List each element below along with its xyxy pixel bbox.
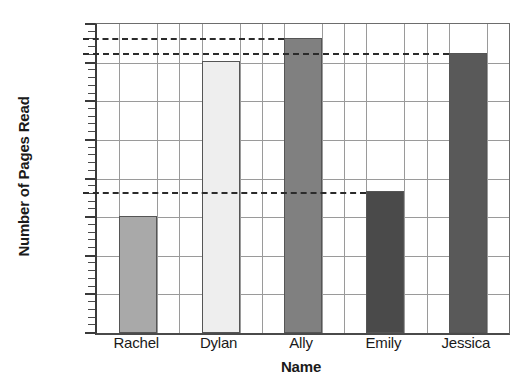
- bar-jessica: [449, 53, 487, 333]
- y-tick-minor: [88, 286, 95, 287]
- y-tick-minor: [88, 123, 95, 124]
- dashed-reference-mid: [83, 53, 449, 55]
- y-axis-title: Number of Pages Read: [15, 62, 32, 292]
- y-tick-major: [85, 255, 95, 257]
- y-tick-minor: [88, 162, 95, 163]
- plot-area: [95, 23, 510, 335]
- y-tick-minor: [88, 108, 95, 109]
- y-tick-minor: [88, 262, 95, 263]
- y-tick-major: [85, 23, 95, 25]
- gridline-vertical: [262, 24, 263, 333]
- gridline-vertical: [344, 24, 345, 333]
- y-tick-minor: [88, 46, 95, 47]
- gridline-vertical: [487, 24, 488, 333]
- y-tick-minor: [88, 93, 95, 94]
- y-tick-minor: [88, 31, 95, 32]
- gridline-vertical: [157, 24, 158, 333]
- bar-dylan: [202, 61, 240, 333]
- bar-emily: [366, 191, 404, 333]
- y-tick-minor: [88, 301, 95, 302]
- y-tick-minor: [88, 278, 95, 279]
- bar-rachel: [119, 216, 157, 333]
- y-tick-minor: [88, 170, 95, 171]
- y-tick-major: [85, 178, 95, 180]
- gridline-vertical: [404, 24, 405, 333]
- y-tick-minor: [88, 208, 95, 209]
- gridline-vertical: [322, 24, 323, 333]
- y-tick-minor: [88, 309, 95, 310]
- y-tick-major: [85, 332, 95, 334]
- y-tick-minor: [88, 185, 95, 186]
- y-tick-major: [85, 100, 95, 102]
- y-tick-minor: [88, 317, 95, 318]
- gridline-vertical: [427, 24, 428, 333]
- dashed-reference-low: [83, 192, 366, 194]
- gridline-vertical: [179, 24, 180, 333]
- bar-chart: Number of Pages Read Name RachelDylanAll…: [0, 0, 521, 381]
- y-tick-minor: [88, 247, 95, 248]
- y-tick-major: [85, 216, 95, 218]
- y-tick-minor: [88, 201, 95, 202]
- y-tick-minor: [88, 232, 95, 233]
- y-tick-minor: [88, 77, 95, 78]
- bar-ally: [284, 38, 322, 333]
- y-tick-minor: [88, 147, 95, 148]
- y-tick-minor: [88, 116, 95, 117]
- x-tick-label-jessica: Jessica: [416, 334, 516, 351]
- x-axis-title: Name: [95, 358, 507, 375]
- y-tick-major: [85, 62, 95, 64]
- y-tick-minor: [88, 154, 95, 155]
- y-tick-minor: [88, 85, 95, 86]
- y-tick-minor: [88, 69, 95, 70]
- y-tick-minor: [88, 131, 95, 132]
- y-tick-minor: [88, 239, 95, 240]
- dashed-reference-high: [83, 38, 284, 40]
- y-tick-minor: [88, 224, 95, 225]
- y-tick-minor: [88, 324, 95, 325]
- gridline-vertical: [240, 24, 241, 333]
- y-tick-major: [85, 293, 95, 295]
- y-tick-major: [85, 139, 95, 141]
- y-tick-minor: [88, 270, 95, 271]
